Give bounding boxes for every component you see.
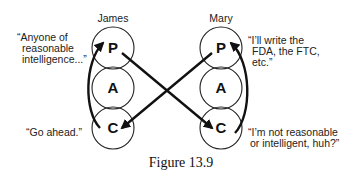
figure-caption: Figure 13.9 [149,155,214,170]
mary-child-label: C [216,119,227,136]
mary-adult-label: A [216,79,227,96]
mary-parent-quote: “I’ll write the FDA, the FTC, etc.” [248,34,320,68]
james-child-label: C [108,119,119,136]
james-parent-label: P [108,39,118,56]
transaction-diagram: James Mary P A C P A C “Anyone of reason… [0,0,363,176]
james-adult-label: A [108,79,119,96]
james-parent-quote: “Anyone of reasonable intelligence...” [17,31,87,65]
james-ego-states: P A C [92,27,134,149]
svg-text:etc.”: etc.” [252,56,273,68]
mary-label: Mary [209,12,233,24]
james-label: James [98,12,129,24]
svg-text:or intelligent, huh?”: or intelligent, huh?” [250,137,340,149]
mary-child-to-parent-arrow-icon [231,43,247,133]
svg-text:intelligence...”: intelligence...” [22,53,87,65]
mary-child-quote: “I’m not reasonable or intelligent, huh?… [248,126,340,149]
james-child-quote: “Go ahead.” [26,126,83,138]
svg-text:“Go ahead.”: “Go ahead.” [26,126,83,138]
mary-parent-label: P [216,39,226,56]
